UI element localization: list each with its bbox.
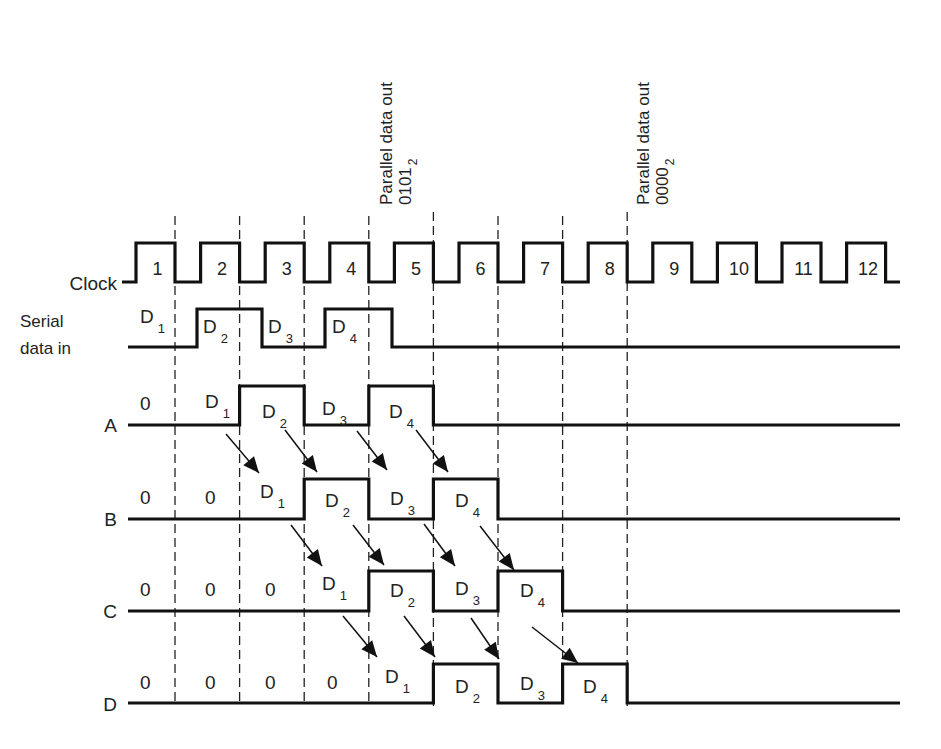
- pulse-number: 12: [858, 259, 878, 279]
- register-value: D2: [455, 676, 480, 706]
- register-value: D2: [390, 580, 415, 610]
- register-value: D4: [455, 490, 480, 520]
- register-value: 0: [265, 672, 276, 693]
- register-value: D2: [203, 316, 228, 346]
- pulse-number: 4: [346, 259, 356, 279]
- register-value: 0: [140, 487, 151, 508]
- register-value: D3: [390, 488, 415, 518]
- annotation-title: Parallel data out: [634, 82, 653, 205]
- register-value: 0: [205, 487, 216, 508]
- register-value: 0: [327, 672, 338, 693]
- arrow-head: [484, 642, 499, 659]
- a-waveform: [128, 386, 900, 425]
- arrow-head: [307, 549, 322, 566]
- c-label: C: [103, 601, 117, 622]
- signal-labels: Clock Serial data in A B C D: [20, 273, 117, 715]
- pulse-number: 9: [669, 259, 679, 279]
- register-value: 0: [205, 672, 216, 693]
- register-value: D1: [322, 573, 347, 603]
- clock-edge-dashed-lines: [175, 212, 627, 706]
- serial-waveform: [128, 309, 900, 347]
- register-value: D4: [583, 676, 608, 706]
- register-value: D2: [262, 401, 287, 431]
- arrow-head: [420, 640, 435, 657]
- annotation-value: 00002: [653, 158, 677, 205]
- register-value: 0: [265, 579, 276, 600]
- register-value: 0: [140, 672, 151, 693]
- serial-label-line2: data in: [20, 339, 71, 358]
- pulse-number: 11: [794, 259, 813, 279]
- serial-label-line1: Serial: [20, 312, 63, 331]
- parallel-out-annotation: Parallel data out00002: [634, 82, 677, 205]
- clock-pulse-numbers: 123456789101112: [152, 259, 878, 279]
- d-waveform: [128, 664, 900, 703]
- register-value: D3: [520, 673, 545, 703]
- register-value: 0: [140, 579, 151, 600]
- pulse-number: 2: [217, 259, 227, 279]
- shift-arrows: [226, 430, 578, 663]
- register-value: D1: [140, 306, 165, 336]
- b-waveform: [128, 479, 900, 519]
- waveforms: [122, 243, 900, 703]
- register-value: D4: [520, 580, 545, 610]
- pulse-number: 7: [540, 259, 550, 279]
- parallel-out-annotation: Parallel data out01012: [377, 82, 420, 205]
- parallel-out-annotations: Parallel data out01012Parallel data out0…: [377, 82, 677, 205]
- a-label: A: [104, 415, 117, 436]
- arrow-head: [440, 549, 455, 566]
- arrow-head: [369, 548, 384, 565]
- register-value: 0: [205, 579, 216, 600]
- arrow-head: [372, 453, 387, 470]
- pulse-number: 3: [282, 259, 292, 279]
- pulse-number: 10: [729, 259, 749, 279]
- annotation-title: Parallel data out: [377, 82, 396, 205]
- register-value: D1: [260, 481, 285, 511]
- timing-diagram: Clock Serial data in A B C D 12345678910…: [0, 0, 941, 749]
- c-waveform: [128, 571, 900, 611]
- register-value: D4: [332, 316, 357, 346]
- pulse-number: 8: [605, 259, 615, 279]
- register-value: D3: [455, 578, 480, 608]
- pulse-number: 6: [475, 259, 485, 279]
- clock-waveform: [122, 243, 900, 282]
- arrow-head: [243, 456, 259, 473]
- clock-label: Clock: [69, 273, 117, 294]
- pulse-number: 1: [152, 259, 162, 279]
- annotation-value: 01012: [396, 158, 420, 205]
- register-value: D4: [389, 401, 414, 431]
- register-value: D1: [385, 666, 410, 696]
- arrow-head: [561, 648, 578, 663]
- register-values: D1D2D3D40D1D2D3D400D1D2D3D4000D1D2D3D400…: [140, 306, 608, 706]
- register-value: D2: [325, 490, 350, 520]
- register-value: D3: [268, 316, 293, 346]
- register-value: D1: [205, 391, 230, 421]
- d-label: D: [103, 694, 117, 715]
- arrow-head: [499, 553, 514, 570]
- b-label: B: [104, 509, 117, 530]
- arrow-head: [433, 455, 448, 472]
- register-value: 0: [140, 393, 151, 414]
- pulse-number: 5: [411, 259, 421, 279]
